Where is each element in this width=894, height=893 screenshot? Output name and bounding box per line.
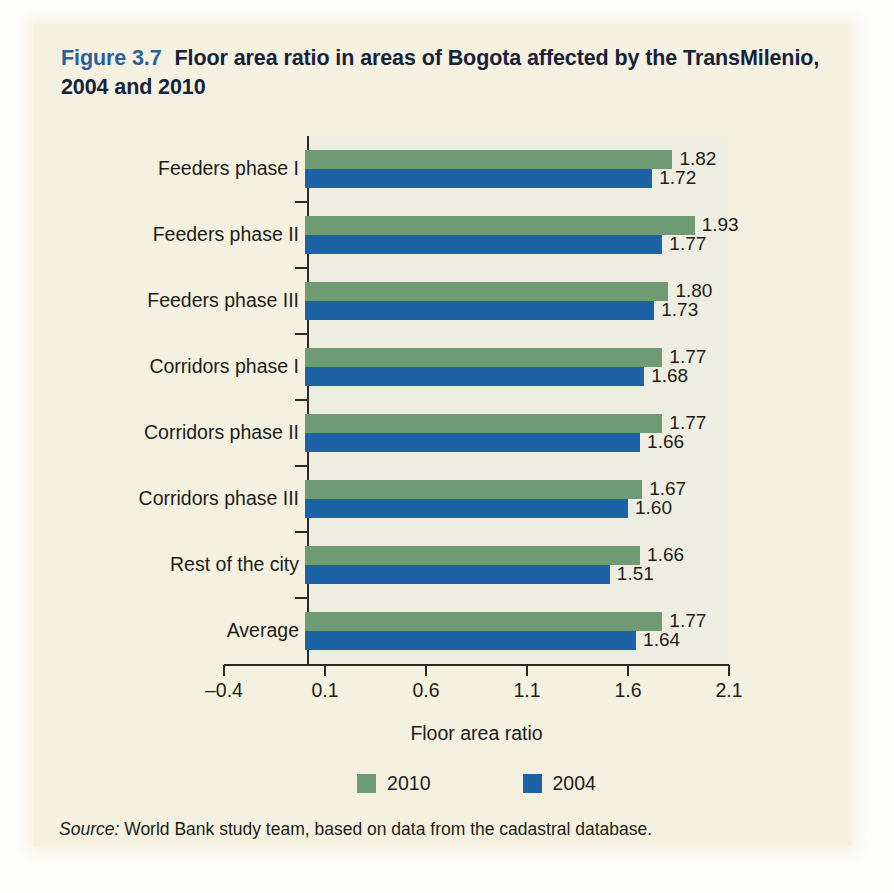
bar-2010-5 — [305, 480, 642, 499]
y-tick-7 — [295, 597, 308, 599]
x-axis-line — [224, 664, 729, 666]
legend-swatch-2010 — [357, 774, 376, 793]
chart-legend: 2010 2004 — [224, 772, 729, 795]
category-label-2: Feeders phase III — [49, 289, 299, 312]
category-label-0: Feeders phase I — [49, 157, 299, 180]
legend-item-2004[interactable]: 2004 — [523, 772, 596, 795]
bar-2010-1 — [305, 216, 695, 235]
value-label-2004-0: 1.72 — [659, 167, 696, 189]
bar-2004-5 — [305, 499, 628, 518]
bar-2004-3 — [305, 367, 644, 386]
value-label-2004-2: 1.73 — [661, 299, 698, 321]
x-tick-2 — [425, 665, 427, 676]
x-tick-label-4: 1.6 — [588, 679, 668, 702]
legend-swatch-2004 — [523, 774, 542, 793]
category-label-7: Average — [49, 619, 299, 642]
bar-2004-0 — [305, 169, 652, 188]
bar-2004-1 — [305, 235, 663, 254]
x-tick-label-3: 1.1 — [487, 679, 567, 702]
x-tick-1 — [324, 665, 326, 676]
category-label-6: Rest of the city — [49, 553, 299, 576]
source-text: World Bank study team, based on data fro… — [119, 819, 652, 839]
value-label-2004-3: 1.68 — [651, 365, 688, 387]
category-label-4: Corridors phase II — [49, 421, 299, 444]
value-label-2010-1: 1.93 — [702, 214, 739, 236]
figure-panel: Figure 3.7Floor area ratio in areas of B… — [33, 24, 851, 846]
y-tick-2 — [295, 267, 308, 269]
x-tick-label-5: 2.1 — [689, 679, 769, 702]
x-tick-3 — [526, 665, 528, 676]
legend-label-2004: 2004 — [553, 772, 596, 795]
source-note: Source: World Bank study team, based on … — [59, 819, 652, 840]
legend-label-2010: 2010 — [387, 772, 430, 795]
y-tick-5 — [295, 465, 308, 467]
category-label-group: Feeders phase IFeeders phase IIFeeders p… — [41, 24, 299, 893]
bar-2004-6 — [305, 565, 610, 584]
y-tick-6 — [295, 531, 308, 533]
x-tick-4 — [627, 665, 629, 676]
bar-2004-2 — [305, 301, 654, 320]
category-label-3: Corridors phase I — [49, 355, 299, 378]
x-tick-5 — [728, 665, 730, 676]
value-label-2004-4: 1.66 — [647, 431, 684, 453]
bar-2010-6 — [305, 546, 640, 565]
bar-2010-3 — [305, 348, 663, 367]
y-tick-1 — [295, 201, 308, 203]
value-label-2004-5: 1.60 — [635, 497, 672, 519]
value-label-2004-7: 1.64 — [643, 629, 680, 651]
value-label-2004-6: 1.51 — [617, 563, 654, 585]
bar-2010-0 — [305, 150, 673, 169]
bar-2004-7 — [305, 631, 636, 650]
bar-2010-2 — [305, 282, 669, 301]
x-tick-label-1: 0.1 — [285, 679, 365, 702]
x-axis-title: Floor area ratio — [224, 722, 729, 745]
bar-2010-7 — [305, 612, 663, 631]
category-label-1: Feeders phase II — [49, 223, 299, 246]
x-tick-label-0: –0.4 — [184, 679, 264, 702]
category-label-5: Corridors phase III — [49, 487, 299, 510]
y-tick-4 — [295, 399, 308, 401]
x-tick-label-2: 0.6 — [386, 679, 466, 702]
x-tick-0 — [223, 665, 225, 676]
y-tick-3 — [295, 333, 308, 335]
value-label-2004-1: 1.77 — [669, 233, 706, 255]
bar-2010-4 — [305, 414, 663, 433]
source-keyword: Source: — [59, 819, 119, 839]
legend-item-2010[interactable]: 2010 — [357, 772, 430, 795]
bar-2004-4 — [305, 433, 640, 452]
